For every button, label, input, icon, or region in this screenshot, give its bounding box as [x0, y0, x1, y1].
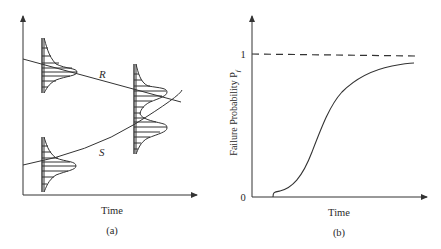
- r-label: R: [98, 68, 106, 80]
- figure: R S Time (a) 1 0 Failure Probability Pf …: [0, 0, 441, 249]
- panel-b: 1 0 Failure Probability Pf Time (b): [228, 16, 427, 239]
- panel-a-caption: (a): [106, 225, 118, 237]
- panel-a-xlabel: Time: [101, 205, 123, 216]
- s-label: S: [99, 146, 105, 158]
- failure-probability-curve: [273, 63, 414, 197]
- panel-b-ylabel: Failure Probability Pf: [228, 69, 242, 155]
- ytick-1: 1: [240, 49, 245, 60]
- s-distribution-early: [42, 137, 76, 192]
- panel-b-caption: (b): [333, 227, 346, 239]
- panel-a: R S Time (a): [23, 16, 197, 237]
- panel-b-xlabel: Time: [328, 207, 350, 218]
- asymptote-line: [252, 54, 416, 56]
- ytick-0: 0: [240, 192, 245, 203]
- rs-distribution-late: [134, 64, 167, 154]
